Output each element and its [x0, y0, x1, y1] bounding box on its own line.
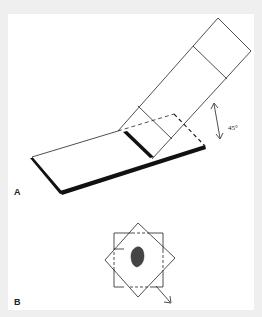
panel-label-a: A [14, 187, 21, 197]
diagram-canvas [0, 0, 262, 317]
angle-arrow-icon [211, 103, 223, 139]
specimen-blob [131, 247, 144, 267]
angle-label: 45° [228, 124, 238, 132]
panel-label-b: B [14, 297, 21, 307]
panel-a-slab [30, 18, 251, 195]
